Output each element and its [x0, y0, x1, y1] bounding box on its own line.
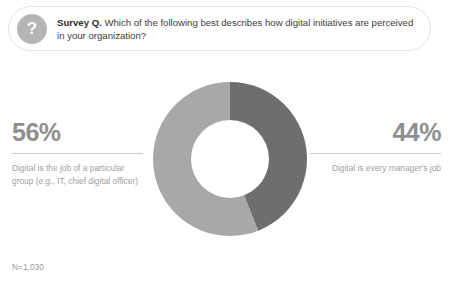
question-mark-icon: ? [17, 14, 47, 44]
callout-left: 56% Digital is the job of a particular g… [12, 118, 143, 187]
percent-value-right: 44% [310, 118, 441, 146]
callout-rule-left [12, 153, 143, 154]
callout-description-left: Digital is the job of a particular group… [12, 162, 143, 187]
callout-right: 44% Digital is every manager's job [310, 118, 441, 175]
callout-description-right: Digital is every manager's job [310, 162, 441, 175]
donut-center-hole [191, 120, 269, 198]
survey-question-text: Survey Q. Which of the following best de… [57, 16, 416, 42]
survey-result-infographic: ? Survey Q. Which of the following best … [0, 0, 453, 289]
sample-size-footnote: N=1,030 [12, 261, 44, 273]
percent-value-left: 56% [12, 118, 143, 146]
survey-question-body: Which of the following best describes ho… [57, 17, 413, 41]
callout-rule-right [310, 153, 441, 154]
survey-question-lead: Survey Q. [57, 17, 102, 28]
donut-chart [153, 82, 307, 236]
survey-question-bar: ? Survey Q. Which of the following best … [8, 6, 431, 51]
